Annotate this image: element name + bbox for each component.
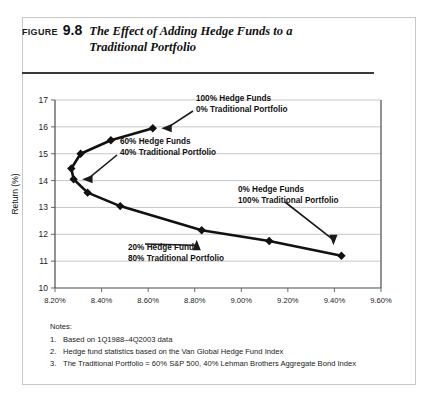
y-tick-label: 10 bbox=[39, 283, 49, 293]
figure-label: FIGURE bbox=[22, 27, 58, 37]
title-divider bbox=[22, 72, 374, 74]
annotation-line: 100% Hedge Funds bbox=[196, 94, 272, 103]
note-text: Based on 1Q1988–4Q2003 data bbox=[63, 334, 410, 346]
chart-plot-area: 10111213141516178.20%8.40%8.60%8.80%9.00… bbox=[0, 78, 394, 308]
note-item: 1.Based on 1Q1988–4Q2003 data bbox=[50, 334, 410, 346]
y-tick-label: 15 bbox=[39, 149, 49, 159]
notes-section: Notes: 1.Based on 1Q1988–4Q2003 data2.He… bbox=[50, 322, 410, 369]
note-item: 3.The Traditional Portfolio = 60% S&P 50… bbox=[50, 358, 410, 370]
annotation-line: 0% Hedge Funds bbox=[238, 185, 304, 194]
figure-title-line1: The Effect of Adding Hedge Funds to a bbox=[89, 24, 292, 38]
y-tick-label: 13 bbox=[39, 202, 49, 212]
data-point-marker bbox=[198, 226, 206, 234]
y-tick-label: 12 bbox=[39, 229, 49, 239]
annotation-hedge-0: 0% Hedge Funds100% Traditional Portfolio bbox=[238, 185, 339, 245]
annotation-arrowhead bbox=[329, 235, 337, 245]
data-point-marker bbox=[265, 237, 273, 245]
figure-title: The Effect of Adding Hedge Funds to a Tr… bbox=[89, 24, 292, 55]
data-point-marker bbox=[107, 136, 115, 144]
annotation-hedge-20: 20% Hedge Funds80% Traditional Portfolio bbox=[128, 240, 224, 263]
annotation-line: 0% Traditional Portfolio bbox=[196, 105, 287, 114]
note-number: 1. bbox=[50, 334, 63, 346]
x-tick-label: 8.40% bbox=[91, 296, 113, 305]
y-tick-label: 14 bbox=[39, 176, 49, 186]
data-point-marker bbox=[337, 252, 345, 260]
note-text: The Traditional Portfolio = 60% S&P 500,… bbox=[63, 358, 410, 370]
note-text: Hedge fund statistics based on the Van G… bbox=[63, 346, 410, 358]
x-tick-label: 9.40% bbox=[324, 296, 346, 305]
figure-title-line2: Traditional Portfolio bbox=[89, 40, 292, 56]
y-tick-label: 17 bbox=[39, 95, 49, 105]
notes-list: 1.Based on 1Q1988–4Q2003 data2.Hedge fun… bbox=[50, 334, 410, 369]
note-number: 3. bbox=[50, 358, 63, 370]
notes-heading: Notes: bbox=[50, 322, 410, 331]
x-tick-label: 9.00% bbox=[231, 296, 253, 305]
x-tick-label: 8.60% bbox=[137, 296, 159, 305]
efficient-frontier-chart: 10111213141516178.20%8.40%8.60%8.80%9.00… bbox=[0, 78, 394, 308]
annotation-arrowhead bbox=[82, 175, 92, 183]
annotation-line: 80% Traditional Portfolio bbox=[128, 254, 224, 263]
figure-title-block: FIGURE 9.8 The Effect of Adding Hedge Fu… bbox=[22, 22, 374, 55]
data-point-marker bbox=[116, 202, 124, 210]
annotation-line: 40% Traditional Portfolio bbox=[120, 148, 216, 157]
x-tick-label: 9.20% bbox=[277, 296, 299, 305]
annotation-line: 60% Hedge Funds bbox=[120, 137, 191, 146]
x-tick-label: 8.20% bbox=[44, 296, 66, 305]
note-number: 2. bbox=[50, 346, 63, 358]
data-point-marker bbox=[149, 124, 157, 132]
note-item: 2.Hedge fund statistics based on the Van… bbox=[50, 346, 410, 358]
y-axis-title: Return (%) bbox=[10, 173, 20, 214]
annotation-arrowhead bbox=[161, 124, 171, 132]
figure-number: 9.8 bbox=[63, 22, 82, 38]
y-tick-label: 16 bbox=[39, 122, 49, 132]
x-tick-label: 9.60% bbox=[370, 296, 392, 305]
y-tick-label: 11 bbox=[39, 256, 48, 266]
x-tick-label: 8.80% bbox=[184, 296, 206, 305]
